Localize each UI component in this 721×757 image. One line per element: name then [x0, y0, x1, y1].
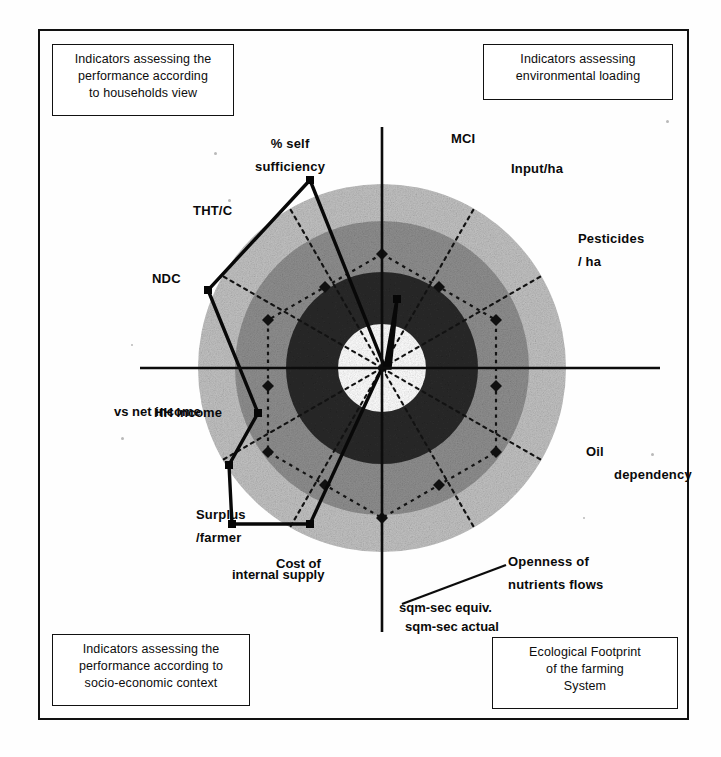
note-line: performance according to [59, 658, 243, 675]
sqm-sec-equiv-line: sqm-sec equiv. [399, 598, 499, 617]
note-box-households-view: Indicators assessing the performance acc… [52, 44, 234, 116]
axis-label-ndc: NDC [152, 269, 181, 289]
axis-label-mci: MCI [451, 129, 475, 149]
axis-label-line: / ha [578, 250, 644, 273]
axis-label-pesticides: Pesticides / ha [578, 227, 644, 273]
axis-label-line: Oil [586, 440, 692, 463]
axis-label-line: sufficiency [255, 155, 325, 178]
note-box-ecological-footprint: Ecological Footprint of the farming Syst… [492, 637, 678, 709]
note-line: Indicators assessing [490, 51, 666, 68]
scan-speck [228, 199, 231, 202]
axis-label-input-ha: Input/ha [511, 159, 563, 179]
scan-speck [121, 437, 124, 440]
axis-label-line: Surplus [196, 503, 246, 526]
scan-speck [651, 453, 654, 456]
axis-label-income-overprint: vs net income HH income [114, 404, 284, 424]
sqm-sec-actual-line: sqm-sec actual [405, 617, 499, 636]
figure-page: Indicators assessing the performance acc… [0, 0, 721, 757]
axis-label-line: % self [255, 132, 325, 155]
note-line: to households view [59, 85, 227, 102]
scan-speck [131, 344, 133, 346]
note-line: socio-economic context [59, 675, 243, 692]
note-line: Indicators assessing the [59, 641, 243, 658]
axis-label-line: Openness of [508, 550, 603, 573]
note-line: System [499, 678, 671, 695]
note-box-environmental-loading: Indicators assessing environmental loadi… [483, 44, 673, 100]
note-line: environmental loading [490, 68, 666, 85]
axis-label-line: /farmer [196, 526, 246, 549]
axis-label-line: Pesticides [578, 227, 644, 250]
axis-label-line: nutrients flows [508, 573, 603, 596]
axis-label-line: dependency [614, 463, 692, 486]
axis-label-openness-nutrients-flows: Openness of nutrients flows [508, 550, 603, 596]
note-line: of the farming [499, 661, 671, 678]
axis-label-self-sufficiency: % self sufficiency [255, 132, 325, 178]
scan-speck [214, 152, 217, 155]
axis-label-sqm-sec: sqm-sec equiv. sqm-sec actual [399, 598, 499, 636]
scan-speck [583, 517, 585, 519]
scan-speck [666, 120, 669, 123]
axis-label-tht-c: THT/C [193, 201, 232, 221]
note-line: Ecological Footprint [499, 644, 671, 661]
axis-label-surplus-farmer: Surplus /farmer [196, 503, 246, 549]
axis-label-oil-dependency: Oil dependency [586, 440, 692, 486]
note-box-socio-economic-context: Indicators assessing the performance acc… [52, 634, 250, 706]
axis-label-internal-supply-overprint: Cost of internal supply [232, 556, 422, 596]
axis-label-hh-income: HH income [154, 405, 222, 420]
note-line: Indicators assessing the [59, 51, 227, 68]
note-line: performance according [59, 68, 227, 85]
axis-label-internal-supply: internal supply [232, 567, 324, 582]
